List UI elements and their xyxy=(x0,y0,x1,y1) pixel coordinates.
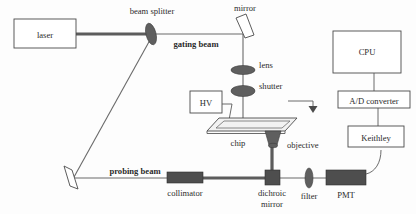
keithley-label: Keithley xyxy=(361,133,391,143)
reflected-beam-diagonal xyxy=(74,40,150,177)
collimator-icon[interactable] xyxy=(167,172,203,183)
mirror-label: mirror xyxy=(234,3,256,13)
optical-setup-diagram: laser beam splitter gating beam mirror l… xyxy=(0,0,416,214)
chip-label: chip xyxy=(231,138,246,148)
dichroic-mirror-label-1: dichroic xyxy=(258,188,286,198)
beam-splitter-icon[interactable] xyxy=(143,22,158,46)
laser-label: laser xyxy=(37,30,53,40)
gating-beam-label: gating beam xyxy=(173,39,219,49)
dichroic-mirror-label-2: mirror xyxy=(261,199,283,209)
probing-beam-label: probing beam xyxy=(109,166,161,176)
objective-label: objective xyxy=(287,140,319,150)
adc-label: A/D converter xyxy=(349,96,399,106)
beam-splitter-label: beam splitter xyxy=(130,6,175,16)
lens-label: lens xyxy=(259,60,273,70)
cpu-label: CPU xyxy=(359,47,377,57)
objective-tip xyxy=(269,143,278,147)
filter-label: filter xyxy=(301,191,318,201)
objective-icon[interactable] xyxy=(265,131,281,145)
shutter-label: shutter xyxy=(259,81,283,91)
pmt-label: PMT xyxy=(337,190,355,200)
pmt-to-keithley-wire xyxy=(366,150,381,174)
filter-icon[interactable] xyxy=(305,168,313,188)
down-arrow-icon xyxy=(309,106,318,113)
shutter-icon[interactable] xyxy=(231,86,255,97)
schematic-canvas: laser beam splitter gating beam mirror l… xyxy=(0,0,416,214)
dichroic-mirror-icon[interactable] xyxy=(265,170,280,185)
lens-icon[interactable] xyxy=(231,66,255,75)
collimator-label: collimator xyxy=(167,188,202,198)
pmt-icon[interactable] xyxy=(326,170,366,185)
hv-label: HV xyxy=(200,98,213,108)
